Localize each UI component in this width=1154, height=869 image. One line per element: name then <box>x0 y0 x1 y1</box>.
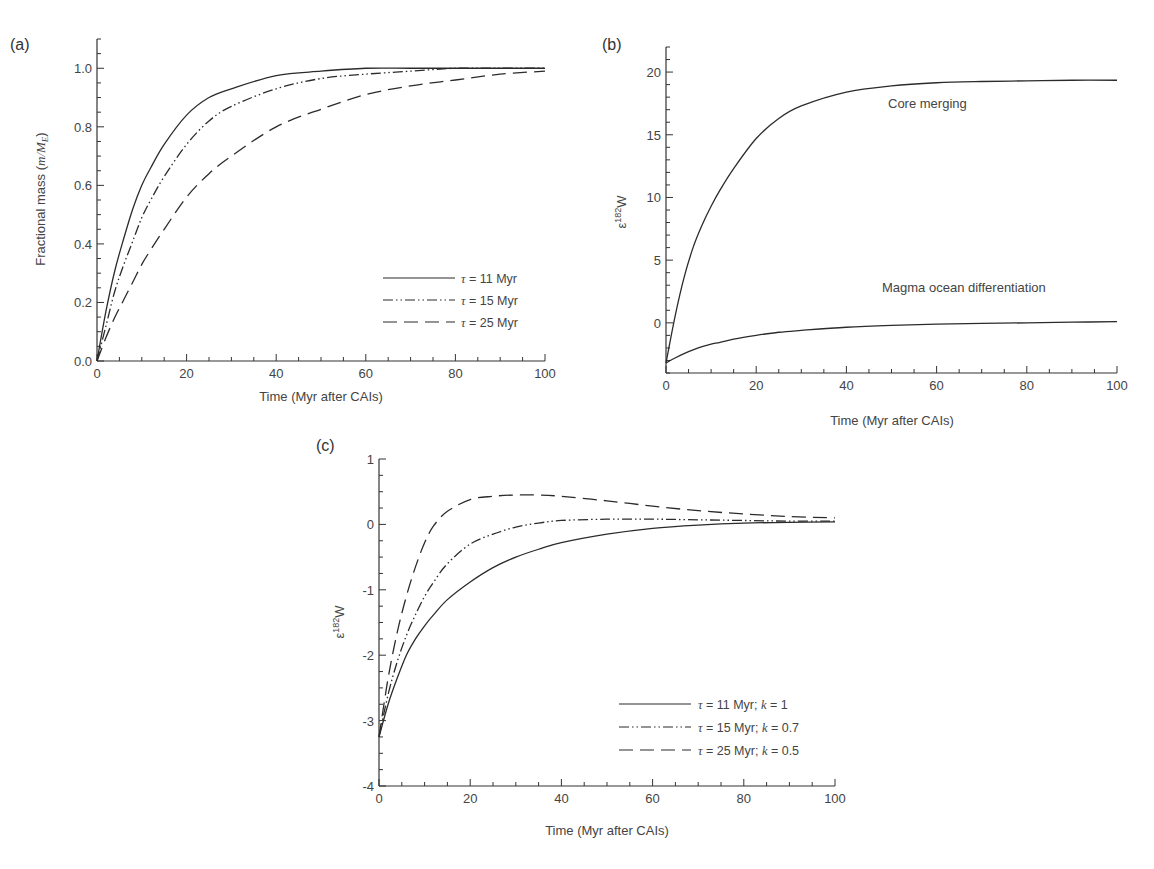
svg-text:τ = 11 Myr; k = 1: τ = 11 Myr; k = 1 <box>698 698 788 712</box>
legend-item: τ = 11 Myr <box>383 272 517 286</box>
y-tick-label: 0.8 <box>74 120 92 135</box>
panel-b: (b) 02040608010005101520 Time (Myr after… <box>602 36 1128 428</box>
y-tick-label: -2 <box>362 648 374 663</box>
panel-b-curves <box>666 80 1117 363</box>
y-tick-label: -4 <box>362 779 374 794</box>
figure-canvas: (a) 0204060801000.00.20.40.60.81.0 Time … <box>0 0 1154 869</box>
x-tick-label: 80 <box>737 791 751 806</box>
y-tick-label: -1 <box>362 583 374 598</box>
y-tick-label: -3 <box>362 714 374 729</box>
y-tick-label: 0.6 <box>74 178 92 193</box>
legend-item: τ = 11 Myr; k = 1 <box>619 698 788 712</box>
annotation-magma-ocean: Magma ocean differentiation <box>882 280 1046 295</box>
legend-item: τ = 15 Myr; k = 0.7 <box>619 721 799 735</box>
panel-c-legend: τ = 11 Myr; k = 1 τ = 15 Myr; k = 0.7 τ … <box>619 698 799 758</box>
panel-b-x-axis-title: Time (Myr after CAIs) <box>830 413 954 428</box>
x-tick-label: 0 <box>93 366 100 381</box>
data-series-line <box>666 80 1117 363</box>
panel-b-y-axis-title: ε182W <box>613 195 629 229</box>
x-tick-label: 100 <box>534 366 556 381</box>
svg-text:τ = 15 Myr: τ = 15 Myr <box>461 294 518 308</box>
y-tick-label: 0.0 <box>74 354 92 369</box>
x-tick-label: 100 <box>1106 378 1128 393</box>
x-tick-label: 80 <box>448 366 462 381</box>
x-tick-label: 40 <box>839 378 853 393</box>
panel-label-a: (a) <box>10 36 30 53</box>
y-tick-label: 1.0 <box>74 61 92 76</box>
y-tick-label: 0.2 <box>74 295 92 310</box>
y-tick-label: 1 <box>367 452 374 467</box>
y-tick-label: 10 <box>647 190 661 205</box>
panel-c-y-axis-title: ε182W <box>331 605 347 639</box>
svg-text:τ = 25 Myr; k = 0.5: τ = 25 Myr; k = 0.5 <box>698 744 799 758</box>
x-tick-label: 100 <box>824 791 846 806</box>
svg-text:τ = 11 Myr: τ = 11 Myr <box>461 272 517 286</box>
legend-item: τ = 15 Myr <box>383 294 518 308</box>
x-tick-label: 0 <box>375 791 382 806</box>
x-tick-label: 20 <box>749 378 763 393</box>
y-tick-label: 20 <box>647 65 661 80</box>
annotation-core-merging: Core merging <box>888 96 967 111</box>
x-tick-label: 60 <box>359 366 373 381</box>
panel-a-x-axis-title: Time (Myr after CAIs) <box>259 389 383 404</box>
x-tick-label: 60 <box>929 378 943 393</box>
x-tick-label: 40 <box>554 791 568 806</box>
panel-a-y-axis-title: Fractional mass (m/ME) <box>33 132 50 265</box>
x-tick-label: 80 <box>1020 378 1034 393</box>
y-tick-label: 5 <box>654 253 661 268</box>
x-tick-label: 60 <box>645 791 659 806</box>
data-series-line <box>666 322 1117 363</box>
x-tick-label: 20 <box>179 366 193 381</box>
svg-text:τ = 15 Myr; k = 0.7: τ = 15 Myr; k = 0.7 <box>698 721 799 735</box>
x-tick-label: 40 <box>269 366 283 381</box>
panel-label-b: (b) <box>602 36 622 53</box>
panel-c-x-axis-title: Time (Myr after CAIs) <box>545 823 669 838</box>
panel-c: (c) 020406080100-4-3-2-101 Time (Myr aft… <box>316 437 846 838</box>
x-tick-label: 20 <box>463 791 477 806</box>
svg-text:τ = 25 Myr: τ = 25 Myr <box>461 316 518 330</box>
x-tick-label: 0 <box>662 378 669 393</box>
legend-item: τ = 25 Myr <box>383 316 518 330</box>
y-tick-label: 0 <box>367 517 374 532</box>
panel-a-legend: τ = 11 Myr τ = 15 Myr τ = 25 Myr <box>383 272 518 330</box>
y-tick-label: 15 <box>647 128 661 143</box>
legend-item: τ = 25 Myr; k = 0.5 <box>619 744 799 758</box>
panel-label-c: (c) <box>316 437 335 454</box>
panel-a: (a) 0204060801000.00.20.40.60.81.0 Time … <box>10 36 556 404</box>
y-tick-label: 0 <box>654 316 661 331</box>
y-tick-label: 0.4 <box>74 237 92 252</box>
